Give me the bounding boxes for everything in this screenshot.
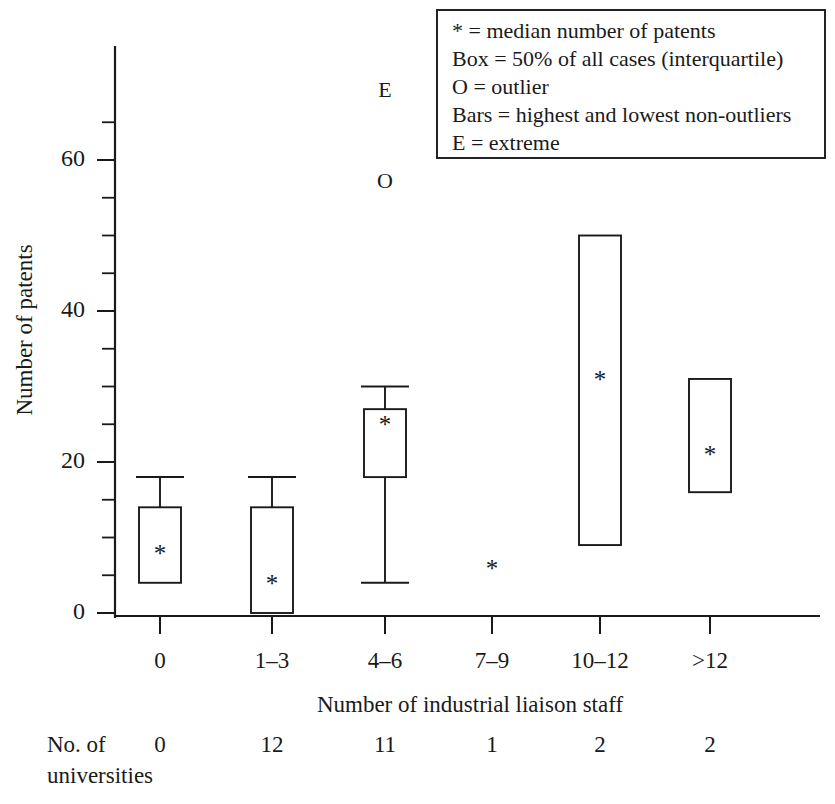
x-axis-title: Number of industrial liaison staff <box>317 692 624 717</box>
y-tick-label: 40 <box>61 296 85 322</box>
legend-entry-1: Box = 50% of all cases (interquartile) <box>452 46 783 71</box>
y-tick-label-group: 0204060 <box>61 145 85 624</box>
legend-entry-2: O = outlier <box>452 74 549 99</box>
point-marker-layer: OE <box>377 77 393 193</box>
median-marker: * <box>594 366 607 393</box>
y-tick-label: 60 <box>61 145 85 171</box>
universities-count-layer: 01211122 <box>154 732 716 757</box>
y-axis-title: Number of patents <box>12 244 37 415</box>
x-tick-label-3: 7–9 <box>475 648 510 673</box>
box-plot-0: * <box>136 477 184 583</box>
legend-entry-3: Bars = highest and lowest non-outliers <box>452 102 791 127</box>
boxplot-svg: 0204060 01–34–67–910–12>12 ****** OE Num… <box>0 0 835 804</box>
universities-count-3: 1 <box>486 732 498 757</box>
box-plot-1012: * <box>579 236 621 546</box>
y-tick-group <box>97 122 115 613</box>
x-tick-group <box>160 616 710 634</box>
box-plot-79: * <box>486 555 499 582</box>
boxplot-figure: 0204060 01–34–67–910–12>12 ****** OE Num… <box>0 0 835 804</box>
x-tick-label-0: 0 <box>154 648 166 673</box>
box-iqr <box>689 379 731 492</box>
universities-count-0: 0 <box>154 732 166 757</box>
x-tick-label-1: 1–3 <box>255 648 290 673</box>
universities-row-label-line1: No. of <box>47 732 106 757</box>
median-marker: * <box>704 441 717 468</box>
universities-count-2: 11 <box>374 732 396 757</box>
y-tick-label: 20 <box>61 447 85 473</box>
extreme-marker: E <box>378 77 391 102</box>
box-plot-12: * <box>689 379 731 492</box>
x-tick-label-2: 4–6 <box>368 648 403 673</box>
x-tick-label-group: 01–34–67–910–12>12 <box>154 648 728 673</box>
y-tick-label: 0 <box>73 598 85 624</box>
legend-entry-4: E = extreme <box>452 130 560 155</box>
median-marker: * <box>154 540 167 567</box>
x-tick-label-4: 10–12 <box>571 648 629 673</box>
universities-row-label-line2: universities <box>47 763 153 788</box>
legend: * = median number of patentsBox = 50% of… <box>437 10 825 158</box>
universities-count-4: 2 <box>594 732 606 757</box>
x-axis: 01–34–67–910–12>12 <box>115 616 820 673</box>
median-marker: * <box>486 555 499 582</box>
median-marker: * <box>266 570 279 597</box>
box-iqr <box>251 507 293 613</box>
box-plot-layer: ****** <box>136 236 731 614</box>
median-marker: * <box>379 411 392 438</box>
box-plot-13: * <box>248 477 296 613</box>
box-plot-46: * <box>361 387 409 583</box>
universities-count-5: 2 <box>704 732 716 757</box>
universities-count-1: 12 <box>261 732 284 757</box>
outlier-marker: O <box>377 168 393 193</box>
x-tick-label-5: >12 <box>692 648 728 673</box>
y-axis: 0204060 <box>61 46 115 624</box>
legend-entry-0: * = median number of patents <box>452 18 716 43</box>
